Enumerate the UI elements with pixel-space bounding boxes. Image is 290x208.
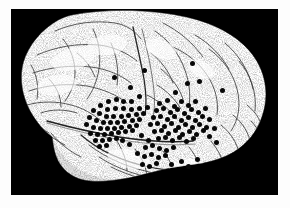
site-marker-dot: [105, 107, 110, 112]
site-marker-dot: [135, 151, 140, 156]
site-marker-dot: [119, 114, 124, 119]
caption-zone: [0, 199, 290, 208]
site-marker-dot: [193, 99, 198, 104]
site-marker-dot: [200, 114, 205, 119]
site-marker-dot: [146, 138, 151, 143]
site-marker-dot: [122, 119, 127, 124]
site-marker-dot: [185, 81, 190, 86]
site-marker-dot: [159, 128, 164, 133]
site-marker-dot: [145, 105, 150, 110]
site-marker-dot: [142, 68, 147, 73]
site-marker-dot: [179, 159, 184, 164]
site-marker-dot: [141, 111, 146, 116]
site-marker-dot: [172, 114, 177, 119]
site-marker-dot: [154, 108, 159, 113]
site-marker-dot: [126, 113, 131, 118]
site-marker-dot: [157, 146, 162, 151]
site-marker-dot: [115, 120, 120, 125]
site-marker-dot: [130, 128, 135, 133]
site-marker-dot: [169, 121, 174, 126]
site-marker-dot: [177, 135, 182, 140]
site-marker-dot: [134, 112, 139, 117]
site-marker-dot: [113, 106, 118, 111]
site-marker-dot: [129, 99, 134, 104]
site-marker-dot: [91, 108, 96, 113]
site-marker-dot: [147, 164, 152, 169]
site-marker-dot: [137, 117, 142, 122]
site-marker-dot: [137, 106, 142, 111]
site-marker-dot: [142, 154, 147, 159]
site-marker-dot: [112, 75, 117, 80]
site-marker-dot: [155, 121, 160, 126]
site-marker-dot: [207, 117, 212, 122]
site-marker-dot: [94, 118, 99, 123]
site-marker-dot: [212, 126, 217, 131]
site-marker-dot: [151, 115, 156, 120]
cortical-site-markers: [11, 9, 278, 195]
site-marker-dot: [165, 98, 170, 103]
site-marker-dot: [169, 162, 174, 167]
site-marker-dot: [137, 94, 142, 99]
site-marker-dot: [175, 107, 180, 112]
site-marker-dot: [123, 129, 128, 134]
site-marker-dot: [108, 120, 113, 125]
site-marker-dot: [158, 114, 163, 119]
site-marker-dot: [107, 137, 112, 142]
site-marker-dot: [93, 138, 98, 143]
site-marker-dot: [84, 122, 89, 127]
site-marker-dot: [183, 122, 188, 127]
site-marker-dot: [101, 120, 106, 125]
site-marker-dot: [190, 61, 195, 66]
brain-illustration-plate: [11, 9, 278, 195]
site-marker-dot: [184, 139, 189, 144]
site-marker-dot: [130, 118, 135, 123]
site-marker-dot: [148, 122, 153, 127]
site-marker-dot: [187, 129, 192, 134]
site-marker-dot: [121, 106, 126, 111]
site-marker-dot: [157, 101, 162, 106]
site-marker-dot: [140, 162, 145, 167]
site-marker-dot: [150, 143, 155, 148]
site-marker-dot: [104, 114, 109, 119]
site-marker-dot: [156, 136, 161, 141]
site-marker-dot: [120, 138, 125, 143]
site-marker-dot: [171, 145, 176, 150]
site-marker-dot: [100, 138, 105, 143]
site-marker-dot: [98, 103, 103, 108]
site-marker-dot: [207, 134, 212, 139]
site-marker-dot: [91, 125, 96, 130]
site-marker-dot: [114, 136, 119, 141]
site-marker-dot: [102, 132, 107, 137]
site-marker-dot: [116, 130, 121, 135]
site-marker-dot: [191, 136, 196, 141]
site-marker-dot: [87, 115, 92, 120]
site-marker-dot: [220, 88, 225, 93]
site-marker-dot: [197, 122, 202, 127]
site-marker-dot: [163, 153, 168, 158]
site-marker-dot: [97, 111, 102, 116]
site-marker-dot: [170, 138, 175, 143]
site-marker-dot: [186, 164, 191, 169]
site-marker-dot: [163, 135, 168, 140]
site-marker-dot: [129, 107, 134, 112]
site-marker-dot: [179, 99, 184, 104]
site-marker-dot: [164, 148, 169, 153]
site-marker-dot: [109, 131, 114, 136]
site-marker-dot: [127, 142, 132, 147]
site-marker-dot: [173, 128, 178, 133]
site-marker-dot: [95, 132, 100, 137]
site-marker-dot: [189, 107, 194, 112]
figure-root: [0, 0, 290, 208]
site-marker-dot: [111, 114, 116, 119]
site-marker-dot: [134, 123, 139, 128]
site-marker-dot: [88, 131, 93, 136]
site-marker-dot: [197, 79, 202, 84]
site-marker-dot: [203, 106, 208, 111]
site-marker-dot: [121, 99, 126, 104]
site-marker-dot: [143, 145, 148, 150]
site-marker-dot: [114, 97, 119, 102]
site-marker-dot: [161, 106, 166, 111]
site-marker-dot: [128, 85, 133, 90]
site-marker-dot: [214, 140, 219, 145]
site-marker-dot: [98, 126, 103, 131]
